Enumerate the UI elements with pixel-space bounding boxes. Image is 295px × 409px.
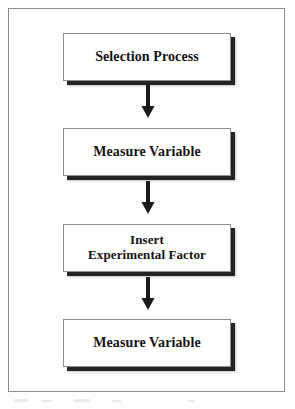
flow-node-measure-variable-post: Measure Variable [63, 319, 231, 367]
scan-artifact [42, 400, 52, 402]
flow-node-measure-variable-pre: Measure Variable [63, 128, 231, 176]
flow-node-selection-process: Selection Process [63, 33, 231, 81]
flow-node-insert-experimental-factor: Insert Experimental Factor [63, 224, 231, 272]
flow-node-label: Measure Variable [87, 335, 207, 351]
down-arrow-icon [140, 277, 156, 311]
flow-node-label: Insert Experimental Factor [82, 233, 212, 262]
scan-artifact [14, 399, 28, 402]
scan-artifact [112, 400, 121, 402]
down-arrow-icon [140, 85, 156, 119]
flow-node-label: Measure Variable [87, 144, 207, 160]
down-arrow-icon [140, 181, 156, 215]
figure-frame: Selection Process Measure Variable Inser… [8, 8, 285, 392]
flow-node-label: Selection Process [89, 49, 205, 65]
scan-artifact [188, 400, 195, 402]
scan-artifact [74, 399, 90, 402]
flowchart-flow: Selection Process Measure Variable Inser… [9, 9, 286, 393]
flowchart-figure: Selection Process Measure Variable Inser… [0, 0, 295, 409]
